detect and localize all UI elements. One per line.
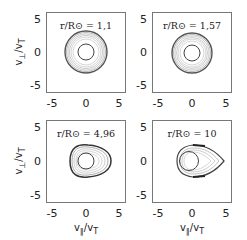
panel-title: r/R⊙ = 1,57 bbox=[163, 20, 221, 31]
panel-title: r/R⊙ = 10 bbox=[168, 128, 217, 139]
y-tick: 5 bbox=[34, 13, 41, 26]
x-tick: 0 bbox=[83, 97, 90, 110]
x-tick: -5 bbox=[47, 97, 58, 110]
x-tick: -5 bbox=[153, 97, 164, 110]
y-tick: -5 bbox=[136, 189, 147, 202]
x-tick: 5 bbox=[116, 97, 123, 110]
y-axis-label-top: v⊥/vT bbox=[13, 38, 27, 65]
x-axis-label-left: v∥/vT bbox=[74, 222, 98, 236]
contours bbox=[65, 31, 107, 73]
x-tick: 0 bbox=[189, 97, 196, 110]
y-tick: -5 bbox=[30, 79, 41, 92]
y-tick: -5 bbox=[136, 79, 147, 92]
y-tick: 0 bbox=[34, 155, 41, 168]
y-tick: 5 bbox=[140, 121, 147, 134]
x-tick: 0 bbox=[83, 207, 90, 220]
x-tick: 5 bbox=[223, 207, 230, 220]
svg-text:v⊥/vT: v⊥/vT bbox=[13, 147, 27, 174]
x-tick: -5 bbox=[47, 207, 58, 220]
y-tick: -5 bbox=[30, 189, 41, 202]
y-tick: 5 bbox=[34, 121, 41, 134]
panel-2: r/R⊙ = 1,57 5 0 -5 -5 0 5 bbox=[136, 13, 231, 111]
y-tick: 0 bbox=[140, 46, 147, 59]
y-tick: 5 bbox=[140, 13, 147, 26]
panel-title: r/R⊙ = 1,1 bbox=[60, 20, 112, 31]
panel-title: r/R⊙ = 4,96 bbox=[57, 128, 115, 139]
x-tick: 5 bbox=[223, 97, 230, 110]
x-tick: 5 bbox=[116, 207, 123, 220]
figure: r/R⊙ = 1,1 5 0 -5 -5 0 5 r/R⊙ = 1,57 bbox=[0, 0, 247, 240]
panel-1: r/R⊙ = 1,1 5 0 -5 -5 0 5 bbox=[30, 13, 125, 111]
y-tick: 0 bbox=[34, 46, 41, 59]
contours bbox=[177, 145, 224, 177]
x-tick: -5 bbox=[153, 207, 164, 220]
y-axis-label-bottom: v⊥/vT bbox=[13, 147, 27, 174]
svg-text:v⊥/vT: v⊥/vT bbox=[13, 38, 27, 65]
y-tick: 0 bbox=[140, 155, 147, 168]
panel-4: r/R⊙ = 10 5 0 -5 -5 0 5 bbox=[136, 121, 231, 221]
contours bbox=[172, 33, 212, 73]
panel-3: r/R⊙ = 4,96 5 0 -5 -5 0 5 bbox=[30, 121, 125, 221]
x-axis-label-right: v∥/vT bbox=[180, 222, 204, 236]
contours bbox=[70, 145, 111, 177]
x-tick: 0 bbox=[189, 207, 196, 220]
